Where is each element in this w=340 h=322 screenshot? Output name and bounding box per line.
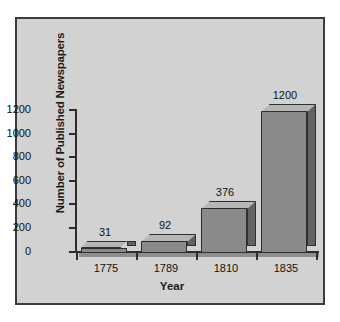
y-axis-tick [69,156,77,158]
bar-top-face [141,234,196,242]
x-axis-tick [136,253,138,260]
y-axis-tick [69,133,77,135]
bar-value-label: 31 [79,226,131,238]
x-axis-tick-label: 1835 [258,262,314,274]
y-axis-tick [69,227,77,229]
y-axis-tick-label: 600 [0,175,31,186]
bar-front-face [201,208,247,253]
bar-side-face [127,241,136,246]
bar-top-face [201,201,256,209]
x-axis-title: Year [17,280,327,292]
y-axis-tick-label: 800 [0,151,31,162]
x-axis-tick [76,253,78,260]
y-axis-tick [69,109,77,111]
axis-floor [79,253,319,257]
y-axis-tick [69,203,77,205]
bar-front-face [81,248,127,253]
x-axis-tick [196,253,198,260]
x-axis-tick [256,253,258,260]
y-axis-tick-label: 1200 [0,104,31,115]
bar-top-face [261,104,316,112]
bar-value-label: 376 [199,186,251,198]
x-axis-tick-label: 1789 [138,262,194,274]
bar-value-label: 1200 [259,89,311,101]
bar-value-label: 92 [139,219,191,231]
y-axis-tick-label: 1000 [0,128,31,139]
y-axis-tick [69,180,77,182]
x-axis-tick-label: 1810 [198,262,254,274]
bar-front-face [141,241,187,253]
y-axis-tick-label: 400 [0,198,31,209]
bar-side-face [307,104,316,246]
y-axis-tick-label: 0 [0,246,31,257]
x-axis-tick-label: 1775 [78,262,134,274]
y-axis-tick-label: 200 [0,222,31,233]
bar-top-face [81,241,127,248]
x-axis-tick [316,253,318,260]
bar-front-face [261,111,307,253]
bar-chart: Number of Published Newspapers 0 200 400… [15,17,325,305]
plot-area: 0 200 400 600 800 1000 1200 1775 1789 18… [17,19,323,303]
